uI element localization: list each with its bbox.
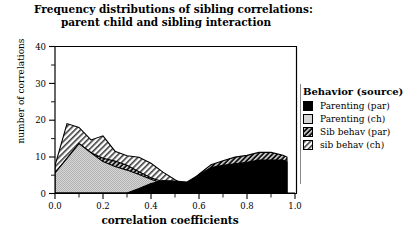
y-axis-ticks <box>49 47 55 194</box>
legend-label-parenting-ch: Parenting (ch) <box>320 114 385 124</box>
x-tick-label-3: 0.6 <box>184 201 214 211</box>
legend-divider <box>300 84 301 184</box>
legend-swatch-sib-behav-ch <box>303 140 313 150</box>
legend-label-parenting-par: Parenting (par) <box>320 101 390 111</box>
legend-label-sib-behav-ch: sib behav (ch) <box>320 140 384 150</box>
legend-item-parenting-par[interactable]: Parenting (par) <box>303 100 417 112</box>
x-axis-ticks <box>55 194 295 200</box>
chart-legend: Behavior (source) Parenting (par) Parent… <box>303 86 417 152</box>
y-tick-label-40: 40 <box>24 42 46 52</box>
y-axis-label: number of correlations <box>16 26 26 156</box>
x-tick-label-5: 1.0 <box>280 201 310 211</box>
y-tick-label-20: 20 <box>24 115 46 125</box>
data-areas <box>55 124 295 193</box>
y-tick-label-30: 30 <box>24 79 46 89</box>
x-tick-label-1: 0.2 <box>88 201 118 211</box>
legend-label-sib-behav-par: Sib behav (par) <box>320 127 390 137</box>
x-tick-label-2: 0.4 <box>136 201 166 211</box>
x-tick-label-4: 0.8 <box>232 201 262 211</box>
legend-title: Behavior (source) <box>303 86 417 97</box>
y-tick-label-0: 0 <box>24 189 46 199</box>
x-tick-label-0: 0.0 <box>40 201 70 211</box>
legend-item-sib-behav-ch[interactable]: sib behav (ch) <box>303 139 417 151</box>
legend-swatch-parenting-par <box>303 101 313 111</box>
legend-item-parenting-ch[interactable]: Parenting (ch) <box>303 113 417 125</box>
legend-swatch-parenting-ch <box>303 114 313 124</box>
chart-figure: Frequency distributions of sibling corre… <box>0 0 419 238</box>
legend-swatch-sib-behav-par <box>303 127 313 137</box>
legend-item-sib-behav-par[interactable]: Sib behav (par) <box>303 126 417 138</box>
x-axis-label: correlation coefficients <box>40 214 300 226</box>
y-tick-label-10: 10 <box>24 152 46 162</box>
